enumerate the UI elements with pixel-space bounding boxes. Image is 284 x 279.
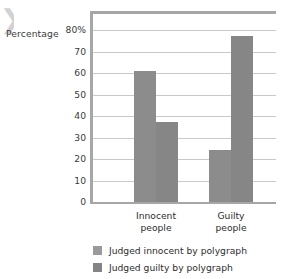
y-axis-tick-label: 0 <box>58 196 86 207</box>
x-axis-tick-label: Guiltypeople <box>186 210 276 233</box>
legend-swatch-icon <box>93 246 102 255</box>
y-axis-tick-label: 50 <box>58 89 86 100</box>
legend-label: Judged guilty by polygraph <box>109 262 233 273</box>
x-axis-tick-label-line: people <box>186 222 276 234</box>
legend-item: Judged guilty by polygraph <box>93 260 283 275</box>
bar <box>134 71 156 202</box>
y-axis-tick-label: 80% <box>50 24 86 35</box>
bars-layer <box>93 11 276 202</box>
chart-figure: ❯ Percentage 80%706050403020100 Innocent… <box>0 0 284 279</box>
y-axis-tick-label: 70 <box>58 46 86 57</box>
x-axis-tick-label-line: Guilty <box>217 210 244 221</box>
bar <box>156 122 178 202</box>
x-axis-line <box>90 202 276 204</box>
y-axis-tick-label: 10 <box>58 175 86 186</box>
y-axis-tick-label: 30 <box>58 132 86 143</box>
bar <box>209 150 231 202</box>
y-axis-tick-label: 40 <box>58 110 86 121</box>
legend-label: Judged innocent by polygraph <box>109 245 247 256</box>
y-axis-tick-label: 20 <box>58 153 86 164</box>
legend-item: Judged innocent by polygraph <box>93 243 283 258</box>
bar <box>231 36 253 202</box>
legend-swatch-icon <box>93 263 102 272</box>
chart-legend: Judged innocent by polygraphJudged guilt… <box>93 243 283 277</box>
x-axis-tick-label-line: Innocent <box>136 210 176 221</box>
y-axis-tick-label: 60 <box>58 67 86 78</box>
